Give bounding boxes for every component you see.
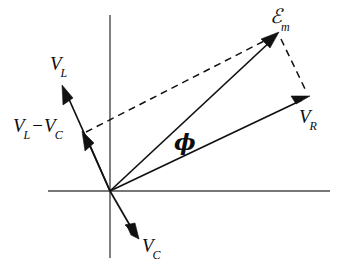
label-vl-minus-vc-base1: V (13, 115, 25, 136)
label-vl-minus-vc: VL−VC (13, 116, 64, 138)
dashed-line-vlvc-to-emf (86, 37, 272, 132)
vector-vc-shaft (110, 191, 132, 229)
label-emf: ℰm (270, 6, 291, 29)
vector-vl-minus-vc-shaft (89, 143, 110, 191)
vector-vc (110, 191, 139, 239)
dashed-line-emf-to-vr (281, 39, 306, 91)
label-vl-minus-vc-sub2: C (55, 128, 63, 142)
label-minus-operator: − (31, 115, 44, 136)
vector-emf-arrowhead (261, 32, 279, 48)
vector-emf-shaft (110, 40, 272, 191)
vector-vl-minus-vc-arrowhead (82, 131, 94, 151)
label-vc-base: V (142, 235, 154, 256)
label-vr: VR (299, 107, 318, 129)
label-vc: VC (142, 236, 162, 258)
label-vl-minus-vc-base2: V (44, 115, 56, 136)
vector-vr-shaft (110, 100, 302, 191)
label-vl-minus-vc-sub1: L (24, 128, 31, 142)
vector-vc-arrowhead-fill (125, 223, 139, 239)
vector-vr-arrowhead (291, 96, 310, 104)
phasor-diagram-figure: ℰm VR VL VL−VC VC ϕ (0, 0, 343, 267)
label-phase-angle: ϕ (174, 130, 196, 153)
vector-vl-arrowhead (62, 85, 73, 105)
label-emf-subscript: m (281, 20, 290, 34)
vector-vr (110, 96, 310, 191)
label-vl-subscript: L (61, 66, 68, 80)
label-vc-subscript: C (153, 248, 161, 262)
construction-lines-group (86, 37, 306, 132)
label-vl-base: V (50, 53, 62, 74)
label-vl: VL (50, 54, 68, 76)
label-vr-subscript: R (310, 119, 317, 133)
vector-emf (110, 32, 279, 191)
label-vr-base: V (299, 106, 311, 127)
vector-vl-minus-vc (82, 131, 110, 191)
